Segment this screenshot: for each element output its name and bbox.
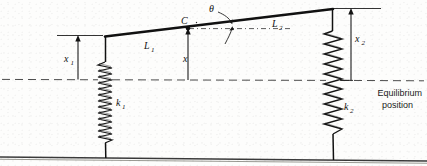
label-x2: x [354,33,360,44]
rigid-bar-group [105,9,333,37]
label-equilibrium-line2: position [382,100,413,110]
label-equilibrium-line1: Equilibrium [377,88,422,98]
spring-left-k1 [98,62,112,158]
label-k1: k [116,97,121,108]
label-k1-subscript: 1 [122,103,126,111]
physics-diagram-figure: x 1 x x 2 L 1 L 2 k 1 k 2 C θ Equilibr [0,0,427,166]
spring-right-k2 [324,31,342,160]
x2-arrowhead-up [348,8,353,15]
label-L1-subscript: 1 [151,46,155,54]
label-k2: k [344,101,349,112]
spring-right-bottom-anchor [333,134,334,160]
label-L2: L [271,18,278,29]
label-x1-subscript: 1 [71,59,75,67]
label-k2-subscript: 2 [350,107,354,115]
label-L2-subscript: 2 [279,24,283,32]
diagram-canvas: x 1 x x 2 L 1 L 2 k 1 k 2 C θ Equilibr [0,0,427,166]
label-x2-subscript: 2 [362,39,366,47]
point-c-marker [186,26,190,30]
point-c-tick-dot [196,22,197,23]
label-x1: x [63,53,69,64]
label-theta: θ [209,3,214,14]
theta-angle-arc-lower [225,28,232,44]
label-L1: L [143,40,150,51]
spring-right-coil-path [324,31,342,134]
rigid-bar [105,9,333,37]
ground-line-group [0,157,427,163]
equilibrium-dashed-line-mid [112,80,326,81]
angle-theta-group [218,12,234,44]
x1-arrowhead-up [75,35,80,42]
label-point-c: C [181,15,188,26]
label-x-center: x [182,53,188,64]
equilibrium-line-group [2,79,424,80]
ground-line [0,157,427,161]
